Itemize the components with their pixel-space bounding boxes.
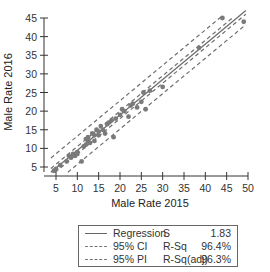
svg-text:20: 20 [25, 105, 37, 117]
svg-text:35: 35 [25, 49, 37, 61]
data-point [135, 105, 140, 110]
data-point [143, 107, 148, 112]
data-point [64, 159, 69, 164]
data-point [88, 140, 93, 145]
legend-box: Regression S 1.83 95% CI R-Sq 96.4% 95% … [78, 225, 238, 267]
stat-name: R-Sq [163, 240, 187, 253]
data-point [126, 114, 131, 119]
svg-text:40: 40 [199, 182, 211, 194]
legend-row-pi: 95% PI R-Sq(adj) 96.3% [79, 253, 237, 266]
svg-text:40: 40 [25, 31, 37, 43]
stat-value: 96.4% [201, 240, 231, 253]
svg-text:10: 10 [71, 182, 83, 194]
svg-text:15: 15 [93, 182, 105, 194]
data-point [241, 19, 246, 24]
x-axis-title: Male Rate 2015 [111, 197, 189, 209]
dashed-line-icon [85, 246, 107, 247]
data-point [79, 159, 84, 164]
svg-text:45: 45 [221, 182, 233, 194]
data-point [103, 131, 108, 136]
data-point [160, 85, 165, 90]
svg-text:30: 30 [157, 182, 169, 194]
stat-value: 96.3% [201, 253, 231, 266]
svg-text:25: 25 [135, 182, 147, 194]
data-point [118, 112, 123, 117]
data-point [96, 129, 101, 134]
data-point [147, 88, 152, 93]
svg-text:45: 45 [25, 12, 37, 24]
data-point [111, 135, 116, 140]
svg-text:5: 5 [53, 182, 59, 194]
data-point [109, 118, 114, 123]
svg-text:10: 10 [25, 142, 37, 154]
data-point [141, 90, 146, 95]
svg-text:50: 50 [242, 182, 254, 194]
data-point [54, 166, 59, 171]
legend-row-ci: 95% CI R-Sq 96.4% [79, 240, 237, 253]
data-point [113, 116, 118, 121]
svg-text:35: 35 [178, 182, 190, 194]
y-axis-title: Male Rate 2016 [2, 53, 14, 131]
solid-line-icon [85, 233, 107, 234]
data-point [92, 133, 97, 138]
legend-label: 95% CI [113, 240, 147, 253]
svg-text:25: 25 [25, 87, 37, 99]
legend-label: Regression [113, 227, 166, 240]
data-point [58, 163, 63, 168]
data-point [220, 16, 225, 21]
data-point [197, 45, 202, 50]
legend-row-regression: Regression S 1.83 [79, 227, 237, 240]
legend-label: 95% PI [113, 253, 147, 266]
stat-value: 1.83 [211, 227, 231, 240]
svg-text:20: 20 [114, 182, 126, 194]
data-point [122, 109, 127, 114]
data-point [86, 135, 91, 140]
stat-name: S [163, 227, 170, 240]
data-point [92, 139, 97, 144]
svg-text:30: 30 [25, 68, 37, 80]
data-point [75, 150, 80, 155]
dashed-line-icon [85, 259, 107, 260]
svg-text:5: 5 [31, 161, 37, 173]
svg-text:15: 15 [25, 124, 37, 136]
data-point [130, 101, 135, 106]
data-point [139, 99, 144, 104]
